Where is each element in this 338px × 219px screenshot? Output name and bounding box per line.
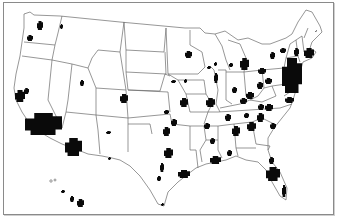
hawaii-outlines [50, 179, 56, 182]
metro-area-maui [70, 196, 74, 202]
us-map [0, 0, 338, 219]
metro-area-hawaii-big [77, 199, 84, 207]
metro-area-honolulu [61, 190, 65, 193]
